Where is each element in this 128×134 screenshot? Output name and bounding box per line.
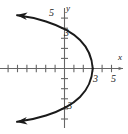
y-axis-label: y: [66, 4, 70, 13]
x-axis-group: [0, 65, 123, 72]
y-tick-label-5: 5: [49, 8, 54, 18]
y-tick-label-negative-3: -3: [64, 101, 72, 111]
y-tick-label-3: 3: [64, 28, 69, 38]
x-tick-label-3: 3: [93, 74, 98, 84]
coordinate-plane-svg: [0, 0, 128, 134]
parabola-upper-branch: [17, 15, 93, 68]
parabola-graph-figure: x y 5 3 -3 3 5: [0, 0, 128, 134]
parabola-lower-branch: [17, 69, 93, 122]
x-tick-label-5: 5: [111, 74, 116, 84]
x-axis-label: x: [118, 53, 122, 62]
